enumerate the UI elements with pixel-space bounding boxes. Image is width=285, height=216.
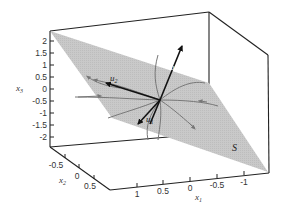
svg-text:0.5: 0.5 (35, 72, 47, 82)
svg-text:-0.5: -0.5 (49, 160, 64, 170)
svg-text:-2: -2 (39, 132, 47, 142)
svg-text:0: 0 (188, 183, 193, 193)
label-plane-s: S (232, 142, 237, 153)
x3-axis-ticks (50, 41, 54, 137)
svg-text:-1: -1 (39, 108, 47, 118)
svg-text:-0.5: -0.5 (210, 180, 225, 190)
x1-axis-label: x1 (194, 192, 202, 203)
x3-axis-tick-labels: 2 1.5 1 0.5 0 -0.5 -1 -1.5 -2 (32, 36, 47, 142)
label-u3: u3 (170, 62, 178, 73)
x2-axis-label: x2 (58, 175, 66, 186)
svg-text:-1.5: -1.5 (32, 120, 47, 130)
svg-text:0: 0 (42, 84, 47, 94)
svg-text:-0.5: -0.5 (32, 96, 47, 106)
svg-text:1: 1 (135, 189, 140, 199)
svg-text:-1: -1 (240, 177, 248, 187)
x1-axis-tick-labels: 1 0.5 0 -0.5 -1 (135, 177, 248, 199)
svg-text:0.5: 0.5 (84, 181, 96, 191)
svg-text:2: 2 (42, 36, 47, 46)
phase-portrait-3d: u2 u1 u3 S 2 1.5 1 0.5 0 -0.5 -1 -1.5 -2 (0, 0, 285, 216)
svg-text:0: 0 (75, 171, 80, 181)
svg-text:0.5: 0.5 (157, 186, 169, 196)
svg-text:1: 1 (42, 60, 47, 70)
svg-text:1.5: 1.5 (35, 48, 47, 58)
x3-axis-label: x3 (15, 83, 23, 94)
